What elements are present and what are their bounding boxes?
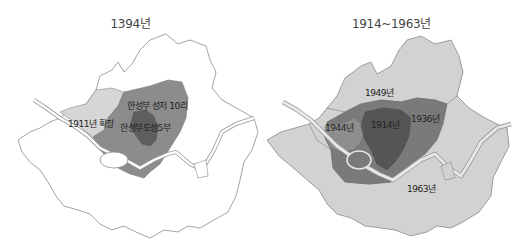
label-1911-expansion: 1911년 확장 bbox=[68, 118, 114, 129]
label-1949: 1949년 bbox=[365, 88, 394, 98]
map-panel-1394: 1394년 1911년 확장 한성부 성저 10리 한성부도성5부 bbox=[0, 0, 261, 251]
yeouido-island bbox=[347, 151, 371, 169]
label-hanseongbu-10ri: 한성부 성저 10리 bbox=[127, 101, 188, 111]
map-panel-1914-1963: 1914~1963년 1949년 1944년 1914년 1936년 1963년 bbox=[261, 0, 522, 251]
label-1944: 1944년 bbox=[325, 123, 354, 133]
seoul-map-1914-1963: 1949년 1944년 1914년 1936년 1963년 bbox=[261, 0, 522, 251]
label-1963: 1963년 bbox=[407, 184, 436, 194]
seoul-map-1394: 1911년 확장 한성부 성저 10리 한성부도성5부 bbox=[0, 0, 261, 251]
label-hanseongbu-5bu: 한성부도성5부 bbox=[120, 123, 171, 133]
yeouido-island bbox=[100, 152, 128, 168]
label-1914: 1914년 bbox=[371, 120, 400, 130]
label-1936: 1936년 bbox=[411, 114, 440, 124]
